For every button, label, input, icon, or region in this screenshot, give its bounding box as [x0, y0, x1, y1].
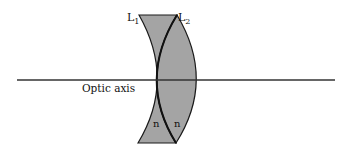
lens-diagram: L1 L2 n n Optic axis — [0, 0, 343, 155]
lens-l2-index-label: n — [174, 118, 181, 129]
optic-axis-label: Optic axis — [82, 82, 135, 94]
lens-l1-label: L1 — [127, 11, 139, 26]
lens-l2-label: L2 — [178, 11, 190, 26]
lens-l1-index-label: n — [153, 118, 160, 129]
